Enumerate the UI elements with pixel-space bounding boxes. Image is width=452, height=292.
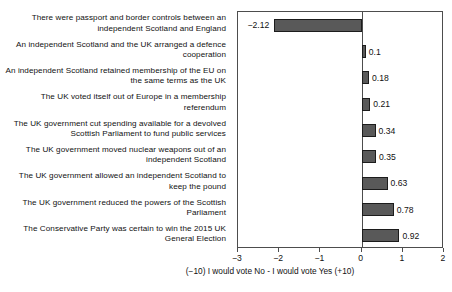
x-axis-tick	[361, 248, 362, 252]
bar	[362, 177, 388, 190]
category-label: The UK government reduced the powers of …	[0, 198, 226, 219]
category-label: An independent Scotland retained members…	[0, 66, 226, 87]
x-axis-tick	[319, 248, 320, 252]
category-label: An independent Scotland and the UK arran…	[0, 40, 226, 61]
x-axis-caption: (−10) I would vote No - I would vote Yes…	[0, 266, 452, 277]
category-label: There were passport and border controls …	[0, 13, 226, 34]
bar-value-label: 0.92	[403, 231, 420, 241]
category-label: The Conservative Party was certain to wi…	[0, 224, 226, 245]
bar-value-label: 0.35	[379, 152, 396, 162]
bar	[362, 45, 366, 58]
bar-value-label: 0.34	[379, 126, 396, 136]
x-axis-caption-text: (−10) I would vote No - I would vote Yes…	[98, 266, 354, 277]
x-axis-tick	[443, 248, 444, 252]
category-label: The UK voted itself out of Europe in a m…	[0, 92, 226, 113]
bar	[362, 203, 394, 216]
x-axis-tick-label: 0	[358, 253, 363, 263]
bar	[362, 98, 371, 111]
bar	[362, 124, 376, 137]
category-label: The UK government moved nuclear weapons …	[0, 145, 226, 166]
category-label: The UK government allowed an independent…	[0, 171, 226, 192]
bar	[362, 229, 400, 242]
x-axis-tick-label: −3	[232, 253, 242, 263]
bar-value-label: 0.1	[369, 47, 381, 57]
horizontal-bar-chart: There were passport and border controls …	[0, 0, 452, 292]
category-label-column: There were passport and border controls …	[0, 11, 231, 248]
x-axis-tick	[237, 248, 238, 252]
x-axis-tick-label: −1	[314, 253, 324, 263]
x-axis-tick	[278, 248, 279, 252]
bar-value-label: 0.78	[397, 205, 414, 215]
bar	[362, 150, 376, 163]
bar	[274, 19, 361, 32]
x-axis-tick	[402, 248, 403, 252]
x-axis-tick-label: 1	[399, 253, 404, 263]
bar-value-label: −2.12	[248, 20, 270, 30]
bar-value-label: 0.18	[372, 73, 389, 83]
bar	[362, 71, 369, 84]
category-label: The UK government cut spending available…	[0, 119, 226, 140]
bar-value-label: 0.63	[391, 178, 408, 188]
x-axis-tick-label: −2	[273, 253, 283, 263]
x-axis-tick-label: 2	[441, 253, 446, 263]
bar-value-label: 0.21	[373, 99, 390, 109]
plot-area: −2.120.10.180.210.340.350.630.780.92	[237, 11, 443, 248]
